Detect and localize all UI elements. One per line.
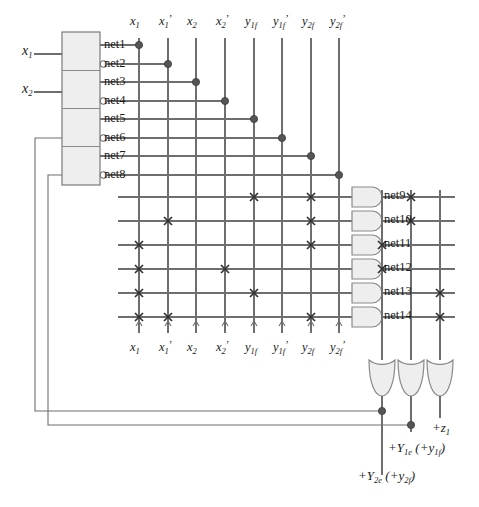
or-gate-Y1e bbox=[398, 360, 424, 396]
connection-dot-net4 bbox=[221, 97, 228, 104]
column-label-bottom-5: y1f’ bbox=[273, 340, 289, 355]
and-gate-net9 bbox=[352, 187, 382, 207]
and-gate-net10 bbox=[352, 211, 382, 231]
and-gate-net13 bbox=[352, 283, 382, 303]
or-gate-Y2e bbox=[369, 360, 395, 396]
net-label-net4: net4 bbox=[104, 93, 126, 108]
net-label-net5: net5 bbox=[104, 111, 126, 126]
column-label-top-3: x2’ bbox=[216, 14, 229, 29]
wire-layer bbox=[0, 0, 479, 507]
column-label-bottom-4: y1f bbox=[245, 340, 257, 355]
connection-dot-net7 bbox=[307, 152, 314, 159]
column-label-top-4: y1f bbox=[245, 14, 257, 29]
column-label-top-1: x1’ bbox=[159, 14, 172, 29]
net-label-net7: net7 bbox=[104, 148, 126, 163]
and-gate-net14 bbox=[352, 307, 382, 327]
and-gate-label-net14: net14 bbox=[384, 308, 412, 323]
and-gate-label-net13: net13 bbox=[384, 284, 412, 299]
and-gate-net12 bbox=[352, 259, 382, 279]
and-gate-net11 bbox=[352, 235, 382, 255]
net-label-net2: net2 bbox=[104, 56, 126, 71]
column-label-bottom-3: x2’ bbox=[216, 340, 229, 355]
column-label-bottom-6: y2f bbox=[302, 340, 314, 355]
column-label-top-0: x1 bbox=[130, 14, 140, 29]
output-label-z1: +z1 bbox=[432, 420, 450, 436]
column-label-top-5: y1f’ bbox=[273, 14, 289, 29]
output-label-Y2e: +Y2e (+y2f) bbox=[358, 468, 415, 484]
feedback-node-y1f bbox=[407, 421, 414, 428]
net-label-net6: net6 bbox=[104, 130, 126, 145]
connection-dot-net8 bbox=[335, 171, 342, 178]
column-label-bottom-7: y2f’ bbox=[330, 340, 346, 355]
connection-dot-net6 bbox=[278, 134, 285, 141]
input-label-x1: x1 bbox=[22, 43, 32, 59]
connection-dot-net3 bbox=[192, 78, 199, 85]
column-label-top-7: y2f’ bbox=[330, 14, 346, 29]
column-label-bottom-2: x2 bbox=[187, 340, 197, 355]
feedback-node-y2f bbox=[378, 407, 385, 414]
column-label-bottom-1: x1’ bbox=[159, 340, 172, 355]
connection-dot-net2 bbox=[164, 60, 171, 67]
column-label-bottom-0: x1 bbox=[130, 340, 140, 355]
column-label-top-6: y2f bbox=[302, 14, 314, 29]
and-gate-label-net10: net10 bbox=[384, 212, 412, 227]
and-gate-label-net9: net9 bbox=[384, 188, 406, 203]
or-gate-z1 bbox=[427, 360, 453, 396]
input-label-x2: x2 bbox=[22, 81, 32, 97]
connection-dot-net1 bbox=[135, 41, 142, 48]
and-gate-label-net11: net11 bbox=[384, 236, 411, 251]
net-label-net8: net8 bbox=[104, 167, 126, 182]
net-label-net3: net3 bbox=[104, 74, 126, 89]
output-label-Y1e: +Y1e (+y1f) bbox=[388, 440, 445, 456]
column-label-top-2: x2 bbox=[187, 14, 197, 29]
logic-diagram-canvas: net1net2net3net4net5net6net7net8x1x2x1x1… bbox=[0, 0, 479, 507]
net-label-net1: net1 bbox=[104, 37, 126, 52]
connection-dot-net5 bbox=[250, 115, 257, 122]
and-gate-label-net12: net12 bbox=[384, 260, 412, 275]
